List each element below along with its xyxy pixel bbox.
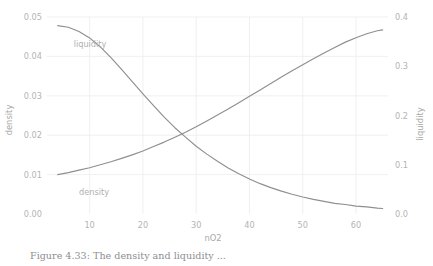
annotation-liquidity: liquidity [74, 39, 107, 49]
x-tick-label: 30 [191, 220, 201, 230]
y-tick-label: 0.03 [24, 91, 42, 101]
y-tick-label: 0.00 [24, 209, 42, 219]
y-tick-label: 0.01 [24, 170, 42, 180]
y2-tick-label: 0.3 [395, 61, 408, 71]
x-tick-label: 40 [244, 220, 254, 230]
series-line-liquidity [58, 30, 383, 175]
series-lines [58, 26, 383, 209]
figure-caption: Figure 4.33: The density and liquidity .… [0, 246, 433, 266]
x-axis-tick-labels: 102030405060 [84, 220, 361, 230]
figure: 0.000.010.020.030.040.05 0.00.10.20.30.4… [0, 0, 433, 266]
y2-tick-label: 0.0 [395, 209, 408, 219]
x-tick-label: 10 [84, 220, 94, 230]
annotation-density: density [79, 187, 109, 197]
figure-caption-text: Figure 4.33: The density and liquidity .… [30, 250, 226, 261]
x-tick-label: 60 [351, 220, 361, 230]
y2-axis-tick-labels: 0.00.10.20.30.4 [395, 12, 408, 219]
series-line-density [58, 26, 383, 209]
y2-tick-label: 0.2 [395, 111, 408, 121]
dual-axis-line-chart: 0.000.010.020.030.040.05 0.00.10.20.30.4… [0, 0, 433, 246]
y-axis-title: density [4, 105, 14, 136]
y2-axis-title: liquidity [415, 107, 425, 141]
chart-area: 0.000.010.020.030.040.05 0.00.10.20.30.4… [0, 0, 433, 246]
y-tick-label: 0.02 [24, 130, 42, 140]
x-tick-label: 50 [298, 220, 308, 230]
y-tick-label: 0.04 [24, 51, 42, 61]
y-tick-label: 0.05 [24, 12, 42, 22]
y-axis-tick-labels: 0.000.010.020.030.040.05 [24, 12, 42, 219]
y2-tick-label: 0.1 [395, 160, 408, 170]
y2-tick-label: 0.4 [395, 12, 408, 22]
x-tick-label: 20 [138, 220, 148, 230]
inline-series-annotations: liquiditydensity [74, 39, 110, 198]
x-axis-title: nO2 [204, 233, 221, 243]
